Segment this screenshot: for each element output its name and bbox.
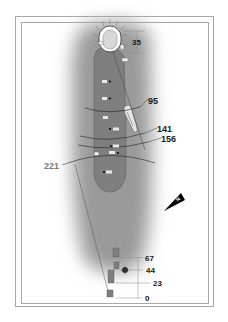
distance-label-141: 141: [157, 124, 172, 134]
fairway: [94, 47, 126, 192]
distance-label-156: 156: [161, 134, 176, 144]
tee-label-44: 44: [146, 266, 155, 275]
tee-label-67: 67: [145, 254, 154, 263]
distance-label-95: 95: [148, 96, 158, 106]
tee-box-67: [113, 248, 119, 257]
hole-diagram: 35 95 141 156 221 N: [0, 0, 228, 322]
north-arrow-icon: N: [164, 193, 185, 211]
marker: [94, 152, 99, 156]
bunker: [99, 41, 104, 45]
tee-label-23: 23: [153, 279, 162, 288]
bunker: [120, 45, 124, 50]
tee-label-0: 0: [145, 294, 150, 303]
distance-label-221: 221: [44, 161, 59, 171]
tee-box-0: [107, 290, 113, 297]
bunker: [122, 58, 128, 62]
green-depth-label: 35: [132, 38, 141, 47]
tee-box-44: [114, 262, 119, 269]
tee-box-23: [108, 270, 114, 283]
